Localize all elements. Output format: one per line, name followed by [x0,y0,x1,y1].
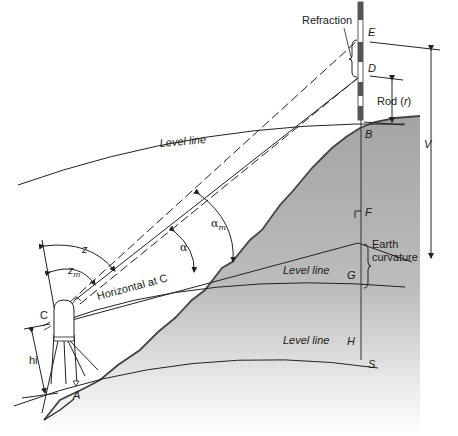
z-arc [44,245,115,271]
label-S: S [368,358,376,370]
label-B: B [365,128,372,140]
refraction-brace [349,40,357,77]
label-z: z [81,243,88,255]
zenith-line [42,240,56,318]
label-level-line-middle: Level line [283,264,329,276]
label-H: H [347,335,355,347]
label-earth: Earth [372,238,398,250]
label-E: E [368,26,376,38]
label-zm: zm [67,264,81,279]
label-C: C [40,309,48,321]
label-D: D [368,62,376,74]
label-hi: hi [29,354,38,366]
label-level-line-bottom: Level line [283,334,329,346]
label-alpha-m: αm [211,217,226,232]
label-A: A [72,389,80,401]
leveling-rod [358,2,363,120]
label-level-line-top: Level line [159,133,206,149]
label-curvature: curvature [372,251,418,263]
label-rod: Rod (r) [377,95,411,107]
trig-leveling-diagram: Refraction E D Rod (r) B V F Earth curva… [0,0,458,436]
label-refraction: Refraction [302,14,352,26]
label-G: G [347,269,356,281]
label-alpha: α [180,241,188,254]
